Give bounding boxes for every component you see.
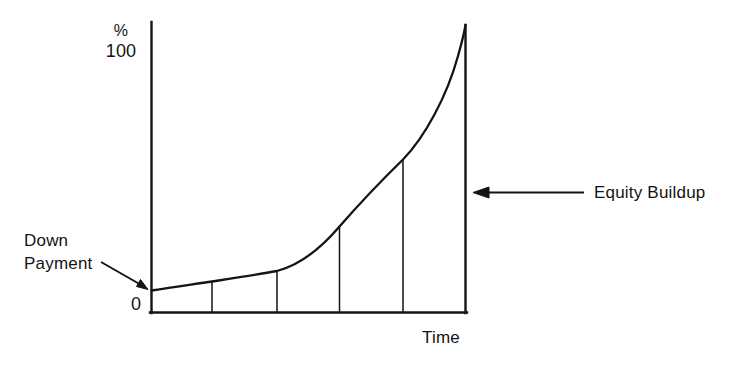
down-payment-line-1: Down bbox=[24, 231, 68, 250]
down-payment-line-2: Payment bbox=[24, 254, 93, 273]
equity-buildup-annotation-label: Equity Buildup bbox=[594, 183, 705, 203]
y-axis-max-label: 100 bbox=[99, 41, 143, 62]
y-axis-min-label: 0 bbox=[126, 294, 146, 315]
equity-curve bbox=[152, 25, 466, 291]
equity-buildup-chart: % 100 0 Time DownPayment Equity Buildup bbox=[0, 0, 731, 367]
equity-buildup-arrow bbox=[473, 187, 584, 198]
y-axis-unit-label: % bbox=[104, 22, 138, 41]
x-axis-title: Time bbox=[396, 328, 486, 348]
down-payment-annotation-label: DownPayment bbox=[24, 230, 93, 276]
down-payment-arrow bbox=[101, 262, 148, 290]
